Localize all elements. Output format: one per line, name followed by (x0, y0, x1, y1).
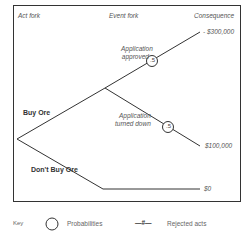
key-probability-circle-icon (46, 218, 58, 230)
dont-buy-ore-branch (17, 139, 103, 189)
approved-event-label: Application approved (118, 45, 153, 61)
approved-line1: Application (118, 45, 153, 53)
dont-buy-ore-label: Don't Buy Ore (31, 166, 78, 173)
key-probabilities-label: Probabilities (67, 220, 102, 227)
key-label: Key (13, 220, 23, 226)
key-rejected-label: Rejected acts (167, 220, 206, 227)
approved-line2: approved (118, 53, 153, 61)
consequence-header: Consequence (194, 12, 234, 19)
dont-buy-consequence: $0 (204, 185, 211, 192)
turned-down-event-label: Application turned down (115, 112, 151, 128)
turned-down-line1: Application (115, 112, 151, 120)
event-fork-header: Event fork (109, 12, 138, 19)
approved-probability: .5 (150, 57, 155, 63)
turned-down-probability: .5 (166, 123, 171, 129)
act-fork-header: Act fork (18, 12, 40, 19)
turned-down-line2: turned down (115, 120, 151, 128)
approved-consequence: - $300,000 (203, 28, 234, 35)
turned-down-consequence: $100,000 (205, 142, 232, 149)
buy-ore-label: Buy Ore (23, 109, 50, 116)
rejected-acts-icon: —#— (135, 219, 152, 226)
